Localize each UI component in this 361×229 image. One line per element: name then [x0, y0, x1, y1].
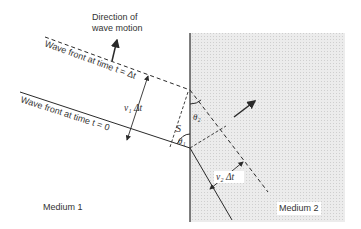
theta1-label: θ₁ [178, 136, 186, 146]
s-label: S [176, 123, 181, 134]
wavefront-initial-label: Wave front at time t = 0 [19, 94, 110, 132]
theta2-label: θ₂ [193, 112, 201, 122]
wavefront-later-label: Wave front at time t = Δt [43, 38, 138, 81]
v1dt-label: v₁ Δt [124, 103, 142, 113]
refraction-diagram: Direction of wave motion Wave front at t… [0, 0, 361, 229]
medium2-label: Medium 2 [279, 203, 319, 213]
direction-arrow-icon [112, 40, 117, 61]
direction-label-line1: Direction of [92, 12, 138, 22]
v2dt-label: v₂ Δt [216, 172, 234, 182]
medium1-label: Medium 1 [43, 202, 83, 212]
medium2-region [190, 33, 345, 222]
direction-label-line2: wave motion [91, 23, 143, 33]
wavefront-initial-line [20, 92, 190, 148]
